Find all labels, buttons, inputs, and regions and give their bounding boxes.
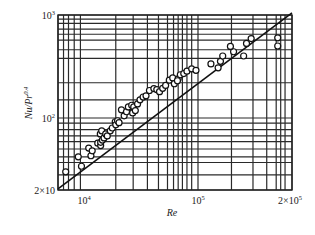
data-points (63, 35, 281, 175)
data-point (78, 163, 84, 169)
data-point (116, 120, 122, 126)
x-tick-base: 10 (191, 195, 201, 206)
y-axis-title-exponent: 0.4 (22, 86, 29, 95)
data-point (208, 61, 214, 67)
x-tick-base: 10 (77, 195, 87, 206)
data-point (227, 43, 233, 49)
data-point (241, 53, 247, 59)
data-point (244, 40, 250, 46)
y-tick-labels: 1031022×10 (34, 9, 55, 196)
data-point (75, 154, 81, 160)
x-axis-title: Re (166, 207, 178, 218)
x-tick-label: 105 (191, 194, 204, 206)
x-tick-label: 104 (77, 194, 91, 206)
data-point (248, 36, 254, 42)
y-tick-label: 2×10 (34, 185, 55, 196)
y-tick-label: 103 (42, 9, 55, 21)
gridlines (58, 15, 292, 190)
y-axis-title: Nu/Pr0.4 (22, 86, 34, 120)
y-tick-exponent: 2 (52, 112, 55, 119)
y-tick-base: 10 (42, 113, 52, 124)
y-tick-exponent: 3 (52, 9, 55, 16)
chart: 1041052×105 1031022×10 Re Nu/Pr0.4 (0, 0, 315, 235)
data-point (275, 43, 281, 49)
x-tick-exponent: 5 (201, 194, 204, 201)
data-point (275, 35, 281, 41)
data-point (89, 148, 95, 154)
data-point (63, 169, 69, 175)
y-tick-label: 102 (42, 112, 55, 124)
x-tick-exponent: 4 (87, 194, 91, 201)
data-point (215, 65, 221, 71)
y-tick-base: 10 (42, 10, 52, 21)
x-tick-exponent: 5 (299, 194, 302, 201)
plot-frame (58, 15, 292, 190)
data-point (132, 108, 138, 114)
data-point (193, 67, 199, 73)
svg-text:Nu/Pr0.4: Nu/Pr0.4 (22, 86, 34, 120)
data-point (220, 53, 226, 59)
y-axis-title-base: Nu/Pr (23, 95, 34, 121)
data-point (174, 78, 180, 84)
x-tick-base: 2×10 (278, 195, 299, 206)
x-tick-labels: 1041052×105 (77, 194, 302, 206)
y-tick-base: 2×10 (34, 185, 55, 196)
x-tick-label: 2×105 (278, 194, 302, 206)
